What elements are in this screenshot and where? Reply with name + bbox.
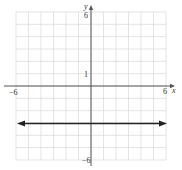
x-max-tick-label: 6 xyxy=(163,88,167,96)
line-left-arrow-icon xyxy=(17,121,25,127)
x-min-tick-label: −6 xyxy=(9,89,18,97)
y-unit-tick-label: 1 xyxy=(84,71,88,79)
y-min-tick-label: −6 xyxy=(82,157,91,165)
y-axis-label: y xyxy=(84,3,88,11)
y-axis-arrow-icon xyxy=(89,5,93,10)
x-axis-label: x xyxy=(172,87,176,95)
y-max-tick-label: 6 xyxy=(84,12,88,20)
coordinate-plane xyxy=(0,0,182,170)
